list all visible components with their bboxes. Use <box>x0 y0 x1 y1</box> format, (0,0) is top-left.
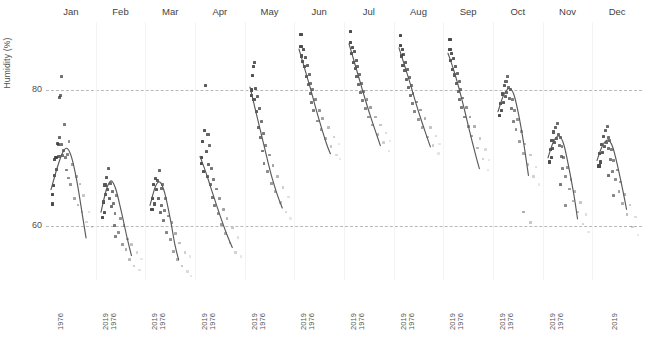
facet-panel-feb <box>96 22 146 280</box>
facet-panel-apr <box>195 22 245 280</box>
facet-label-aug: Aug <box>394 6 444 17</box>
trend-line <box>46 22 96 280</box>
facet-label-feb: Feb <box>96 6 146 17</box>
facet-label-apr: Apr <box>195 6 245 17</box>
x-axis-tick-1976: 1976 <box>407 313 416 330</box>
plot-area <box>46 22 642 280</box>
facet-label-mar: Mar <box>145 6 195 17</box>
facet-panel-dec <box>592 22 642 280</box>
x-axis-tick-1976: 1976 <box>56 313 65 330</box>
facet-panel-jun <box>294 22 344 280</box>
facet-panel-jan <box>46 22 96 280</box>
trend-line <box>195 22 245 280</box>
trend-line <box>294 22 344 280</box>
facet-panel-oct <box>493 22 543 280</box>
facet-label-sep: Sep <box>443 6 493 17</box>
trend-line <box>592 22 642 280</box>
facet-panel-may <box>245 22 295 280</box>
facet-label-may: May <box>245 6 295 17</box>
x-axis-tick-1976: 1976 <box>506 313 515 330</box>
x-axis-tick-1976: 1976 <box>158 313 167 330</box>
trend-line <box>245 22 295 280</box>
trend-line <box>443 22 493 280</box>
facet-label-nov: Nov <box>543 6 593 17</box>
y-axis-label: Humidity (%) <box>2 18 12 108</box>
facet-label-jun: Jun <box>294 6 344 17</box>
facet-panel-mar <box>145 22 195 280</box>
x-axis-tick-1976: 1976 <box>357 313 366 330</box>
facet-panel-nov <box>543 22 593 280</box>
x-axis-tick-1976: 1976 <box>456 313 465 330</box>
trend-line <box>344 22 394 280</box>
y-axis-tick-80: 80 <box>20 84 42 94</box>
facet-panel-jul <box>344 22 394 280</box>
x-axis-tick-1976: 1976 <box>556 313 565 330</box>
facet-label-dec: Dec <box>592 6 642 17</box>
trend-line <box>493 22 543 280</box>
facet-label-jul: Jul <box>344 6 394 17</box>
x-axis-tick-2019: 2019 <box>610 313 619 330</box>
chart-root: Humidity (%) 80 60 Jan1976Feb20191976Mar… <box>0 0 648 338</box>
facet-label-oct: Oct <box>493 6 543 17</box>
facet-panel-sep <box>443 22 493 280</box>
trend-line <box>145 22 195 280</box>
trend-line <box>96 22 146 280</box>
trend-line <box>394 22 444 280</box>
x-axis-tick-1976: 1976 <box>258 313 267 330</box>
trend-line <box>543 22 593 280</box>
facet-label-jan: Jan <box>46 6 96 17</box>
x-axis-tick-1976: 1976 <box>109 313 118 330</box>
facet-panel-aug <box>394 22 444 280</box>
x-axis-tick-1976: 1976 <box>307 313 316 330</box>
y-axis-tick-60: 60 <box>20 220 42 230</box>
x-axis-tick-1976: 1976 <box>208 313 217 330</box>
